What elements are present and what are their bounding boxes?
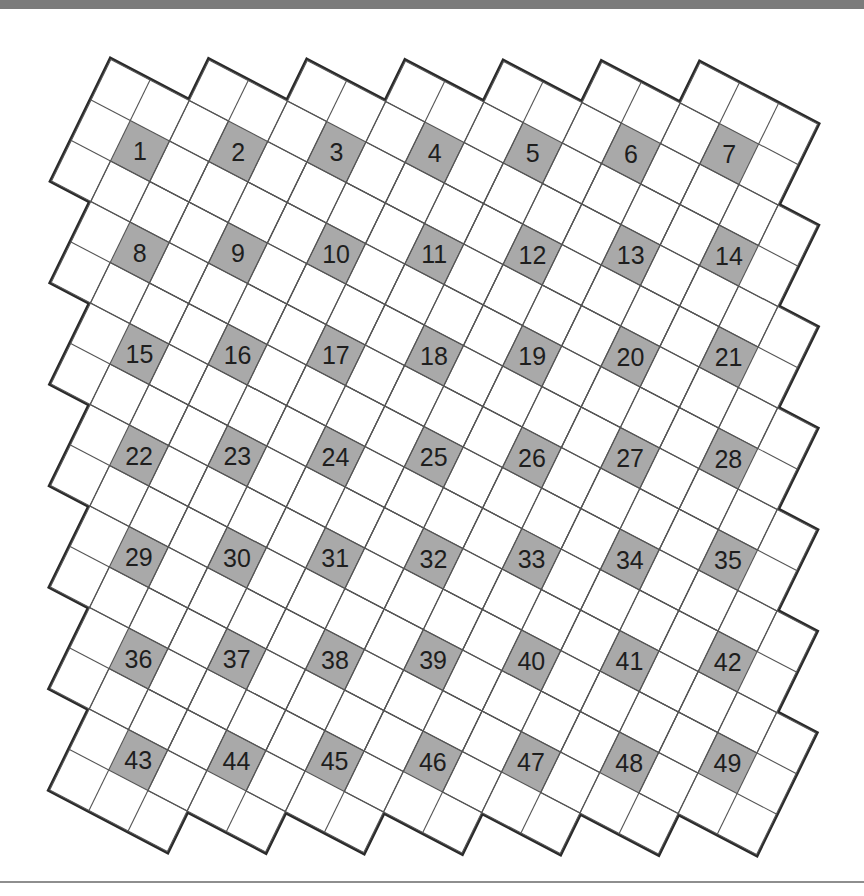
cell-number: 38 bbox=[321, 646, 349, 674]
cell-number: 33 bbox=[518, 545, 546, 573]
cell-number: 20 bbox=[616, 343, 644, 371]
cell-number: 49 bbox=[713, 749, 741, 777]
cell-number: 30 bbox=[223, 544, 251, 572]
bottom-rule bbox=[0, 881, 864, 883]
cell-number: 47 bbox=[517, 748, 545, 776]
cell-number: 3 bbox=[329, 138, 343, 166]
cell-number: 41 bbox=[616, 647, 644, 675]
cell-number: 21 bbox=[715, 343, 743, 371]
cell-number: 39 bbox=[419, 646, 447, 674]
cell-number: 31 bbox=[321, 544, 349, 572]
cell-number: 16 bbox=[224, 341, 252, 369]
cell-number: 37 bbox=[223, 645, 251, 673]
cell-number: 9 bbox=[231, 239, 245, 267]
cell-number: 25 bbox=[420, 443, 448, 471]
cell-number: 46 bbox=[419, 748, 447, 776]
cell-number: 6 bbox=[624, 140, 638, 168]
cell-number: 45 bbox=[321, 747, 349, 775]
cell-number: 35 bbox=[714, 546, 742, 574]
cell-number: 43 bbox=[124, 746, 152, 774]
cell-number: 2 bbox=[231, 138, 245, 166]
cell-number: 4 bbox=[428, 139, 442, 167]
cell-number: 27 bbox=[616, 444, 644, 472]
cell-number: 40 bbox=[517, 647, 545, 675]
cell-number: 10 bbox=[322, 240, 350, 268]
cell-number: 28 bbox=[714, 445, 742, 473]
cell-number: 7 bbox=[722, 140, 736, 168]
cell-number: 34 bbox=[616, 546, 644, 574]
cell-number: 36 bbox=[125, 645, 153, 673]
cell-number: 5 bbox=[526, 139, 540, 167]
cell-number: 22 bbox=[125, 442, 153, 470]
cell-number: 19 bbox=[518, 342, 546, 370]
cell-number: 18 bbox=[420, 342, 448, 370]
cell-number: 29 bbox=[125, 543, 153, 571]
cell-number: 17 bbox=[322, 341, 350, 369]
cell-number: 32 bbox=[419, 545, 447, 573]
cell-number: 1 bbox=[133, 137, 147, 165]
cell-number: 26 bbox=[518, 444, 546, 472]
rotated-grid-puzzle: 1234567891011121314151617181920212223242… bbox=[0, 0, 864, 896]
cell-number: 13 bbox=[617, 241, 645, 269]
cell-number: 14 bbox=[715, 242, 743, 270]
cell-number: 23 bbox=[223, 442, 251, 470]
cell-number: 12 bbox=[519, 241, 547, 269]
cell-number: 15 bbox=[125, 340, 153, 368]
cell-number: 42 bbox=[714, 648, 742, 676]
cell-number: 24 bbox=[322, 443, 350, 471]
cell-number: 48 bbox=[615, 749, 643, 777]
cell-number: 44 bbox=[222, 747, 250, 775]
cell-number: 11 bbox=[421, 240, 447, 268]
cell-number: 8 bbox=[133, 239, 147, 267]
